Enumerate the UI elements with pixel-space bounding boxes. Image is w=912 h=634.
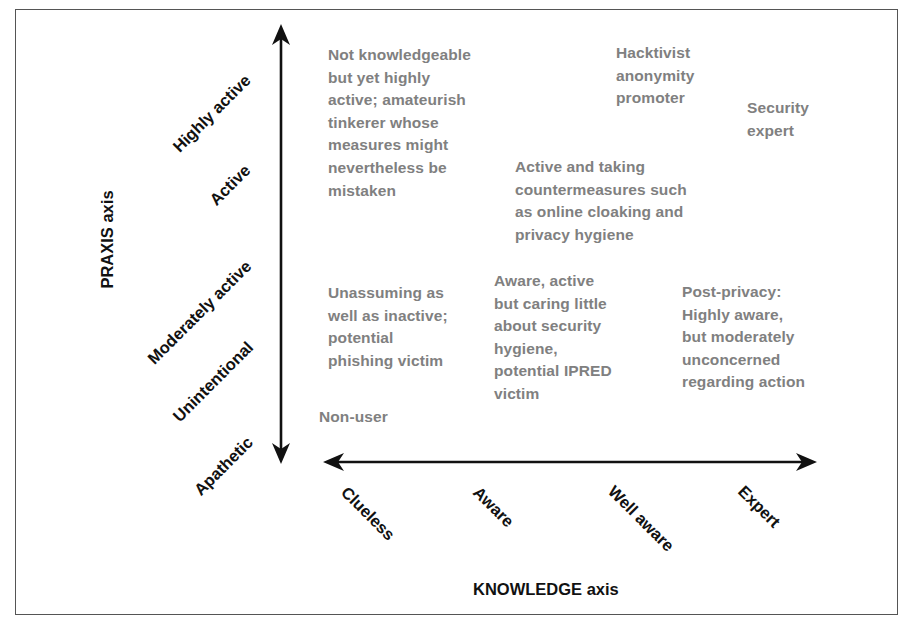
praxis-axis-arrow: [272, 24, 290, 464]
cell-non-user: Non-user: [319, 406, 388, 429]
praxis-axis-title: PRAXIS axis: [98, 190, 117, 290]
cell-tinkerer: Not knowledgeable but yet highly active;…: [328, 44, 471, 202]
cell-unassuming: Unassuming as well as inactive; potentia…: [328, 282, 448, 372]
knowledge-axis-title: KNOWLEDGE axis: [473, 580, 619, 599]
cell-post-privacy: Post-privacy: Highly aware, but moderate…: [682, 281, 805, 394]
cell-aware-active: Aware, active but caring little about se…: [494, 270, 612, 406]
cell-security-expert: Security expert: [747, 97, 809, 142]
cell-countermeasures: Active and taking countermeasures such a…: [515, 156, 687, 246]
cell-hacktivist: Hacktivist anonymity promoter: [616, 42, 694, 110]
knowledge-axis-arrow: [323, 453, 817, 471]
